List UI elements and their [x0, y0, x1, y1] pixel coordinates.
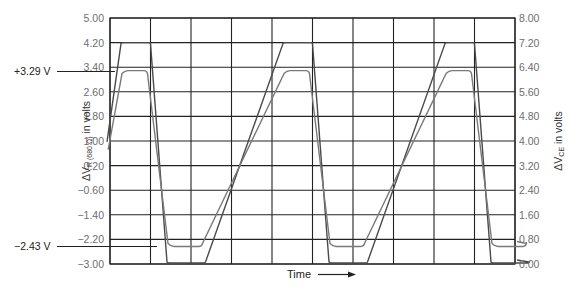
right-tick-label: 4.80 — [519, 110, 540, 122]
left-tick-label: −3.00 — [77, 258, 104, 270]
right-tick-label: 6.40 — [519, 61, 540, 73]
time-arrow-icon — [318, 272, 356, 278]
grid — [110, 18, 515, 264]
right-tick-label: 0.80 — [519, 233, 540, 245]
vce-trace — [107, 43, 530, 263]
left-tick-label: 4.20 — [84, 37, 105, 49]
right-tick-label: 8.00 — [519, 12, 540, 24]
right-tick-label: 7.20 — [519, 37, 540, 49]
right-tick-label: 0.00 — [519, 258, 540, 270]
left-tick-label: −0.60 — [77, 184, 104, 196]
left-tick-label: −1.40 — [77, 209, 104, 221]
annotation-low-label: −2.43 V — [14, 240, 51, 252]
left-tick-label: −2.20 — [77, 233, 104, 245]
left-tick-label: 2.60 — [84, 86, 105, 98]
right-axis-ticks: 8.007.206.405.604.804.003.202.401.600.80… — [519, 12, 540, 270]
waveform-chart: 5.004.203.402.601.801.000.20−0.60−1.40−2… — [0, 0, 569, 289]
right-tick-label: 5.60 — [519, 86, 540, 98]
right-tick-label: 3.20 — [519, 160, 540, 172]
left-axis-label: ΔVR (680 Ω) in volts — [80, 101, 94, 181]
right-tick-label: 2.40 — [519, 184, 540, 196]
vr-trace — [108, 71, 526, 247]
left-tick-label: 5.00 — [84, 12, 105, 24]
traces — [107, 43, 530, 263]
annotation-high-label: +3.29 V — [14, 65, 51, 77]
x-axis-label: Time — [287, 268, 311, 280]
right-axis-label: ΔVCE in volts — [552, 111, 565, 170]
right-tick-label: 4.00 — [519, 135, 540, 147]
right-tick-label: 1.60 — [519, 209, 540, 221]
